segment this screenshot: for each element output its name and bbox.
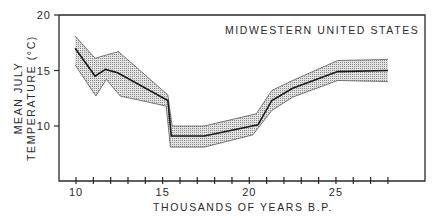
x-axis-ticks: 10152025 [69, 177, 388, 198]
x-axis-title: THOUSANDS OF YEARS B.P. [153, 201, 333, 213]
temperature-chart: 101520 10152025 MIDWESTERN UNITED STATES… [0, 0, 435, 220]
y-tick-label: 15 [37, 65, 51, 77]
chart-title: MIDWESTERN UNITED STATES [225, 24, 419, 36]
x-tick-label: 20 [242, 186, 256, 198]
plot-frame [59, 15, 425, 181]
y-tick-label: 20 [37, 9, 51, 21]
y-axis-title: MEAN JULY TEMPERATURE (°C) [12, 35, 37, 161]
y-axis-ticks: 101520 [37, 9, 59, 132]
y-axis-title-line2: TEMPERATURE (°C) [25, 35, 37, 161]
x-tick-label: 25 [329, 186, 343, 198]
x-tick-label: 15 [156, 186, 170, 198]
x-tick-label: 10 [69, 186, 83, 198]
y-tick-label: 10 [37, 120, 51, 132]
y-axis-title-line1: MEAN JULY [12, 62, 24, 135]
